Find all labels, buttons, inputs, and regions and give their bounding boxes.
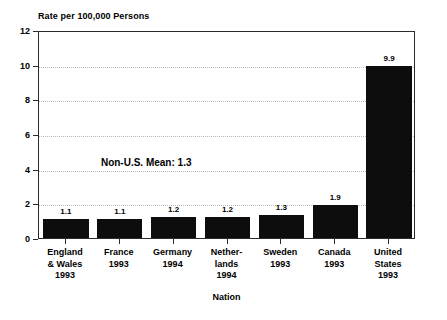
y-axis-tick <box>33 239 38 240</box>
y-axis-tick-label: 8 <box>0 96 30 105</box>
category-label-line: United <box>361 247 415 259</box>
bar[interactable] <box>43 219 88 238</box>
x-axis-tick <box>334 239 335 244</box>
category-label-line: 1993 <box>92 259 146 271</box>
y-axis-tick-label: 2 <box>0 200 30 209</box>
y-axis-tick-label: 10 <box>0 61 30 70</box>
bar-value-label: 1.1 <box>93 208 147 216</box>
x-axis-tick <box>173 239 174 244</box>
plot-area: 1.11.11.21.21.31.99.9 Non-U.S. Mean: 1.3 <box>38 31 415 239</box>
bar-value-label: 1.2 <box>147 206 201 214</box>
y-axis-tick <box>33 31 38 32</box>
bar[interactable] <box>205 217 250 238</box>
x-axis-tick <box>65 239 66 244</box>
bar[interactable] <box>366 66 411 238</box>
category-label-line: 1994 <box>200 270 254 282</box>
category-label-line: Germany <box>146 247 200 259</box>
y-axis-tick-label: 12 <box>0 27 30 36</box>
x-axis-category-label: Nether-lands1994 <box>200 247 254 282</box>
bar-slot: 1.3 <box>254 32 308 238</box>
y-axis-tick <box>33 135 38 136</box>
y-axis-tick <box>33 66 38 67</box>
x-axis-category-label: England& Wales1993 <box>38 247 92 282</box>
bar-value-label: 1.9 <box>308 194 362 202</box>
category-label-line: Nether- <box>200 247 254 259</box>
x-axis-category-label: UnitedStates1993 <box>361 247 415 282</box>
y-axis-title: Rate per 100,000 Persons <box>38 11 149 21</box>
x-axis-tick <box>119 239 120 244</box>
category-label-line: Sweden <box>253 247 307 259</box>
y-axis-tick <box>33 204 38 205</box>
category-label-line: lands <box>200 259 254 271</box>
y-axis-tick <box>33 170 38 171</box>
bar-value-label: 1.1 <box>39 208 93 216</box>
category-label-line: 1993 <box>38 270 92 282</box>
bar-slot: 1.9 <box>308 32 362 238</box>
chart-annotation: Non-U.S. Mean: 1.3 <box>101 157 192 168</box>
category-label-line: Canada <box>307 247 361 259</box>
chart-figure: Rate per 100,000 Persons 1.11.11.21.21.3… <box>0 0 447 320</box>
bar-value-label: 1.3 <box>254 204 308 212</box>
y-axis-tick-label: 6 <box>0 131 30 140</box>
bar[interactable] <box>259 215 304 238</box>
bar-slot: 1.2 <box>147 32 201 238</box>
y-axis-tick-label: 4 <box>0 165 30 174</box>
bar-slot: 1.1 <box>93 32 147 238</box>
category-label-line: & Wales <box>38 259 92 271</box>
x-axis-tick <box>388 239 389 244</box>
y-axis-tick <box>33 100 38 101</box>
category-label-line: France <box>92 247 146 259</box>
bar-slot: 1.1 <box>39 32 93 238</box>
x-axis-category-label: Canada1993 <box>307 247 361 270</box>
x-axis-tick <box>227 239 228 244</box>
bar[interactable] <box>97 219 142 238</box>
category-label-line: 1993 <box>253 259 307 271</box>
bar[interactable] <box>151 217 196 238</box>
y-axis-tick-label: 0 <box>0 235 30 244</box>
category-label-line: 1994 <box>146 259 200 271</box>
category-label-line: England <box>38 247 92 259</box>
category-label-line: 1993 <box>361 270 415 282</box>
bar-slot: 1.2 <box>201 32 255 238</box>
x-axis-category-label: France1993 <box>92 247 146 270</box>
x-axis-category-label: Sweden1993 <box>253 247 307 270</box>
x-axis-title: Nation <box>38 292 415 302</box>
category-label-line: 1993 <box>307 259 361 271</box>
bar-slot: 9.9 <box>362 32 416 238</box>
x-axis-category-label: Germany1994 <box>146 247 200 270</box>
bar[interactable] <box>313 205 358 238</box>
category-label-line: States <box>361 259 415 271</box>
bar-series: 1.11.11.21.21.31.99.9 <box>39 32 414 238</box>
x-axis-tick <box>280 239 281 244</box>
bar-value-label: 1.2 <box>201 206 255 214</box>
bar-value-label: 9.9 <box>362 55 416 63</box>
